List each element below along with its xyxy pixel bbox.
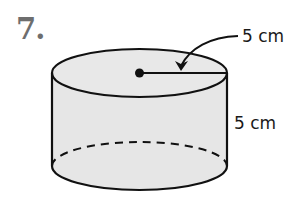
height-label: 5 cm: [234, 113, 276, 133]
radius-label: 5 cm: [242, 26, 284, 46]
center-point: [135, 69, 144, 78]
